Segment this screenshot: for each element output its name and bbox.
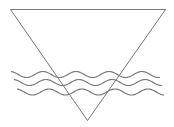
wave-line-1 [11,72,160,78]
wave-line-2 [14,80,162,86]
inverted-triangle [11,10,166,121]
water-symbol-diagram [0,0,174,127]
wave-line-3 [17,89,164,95]
